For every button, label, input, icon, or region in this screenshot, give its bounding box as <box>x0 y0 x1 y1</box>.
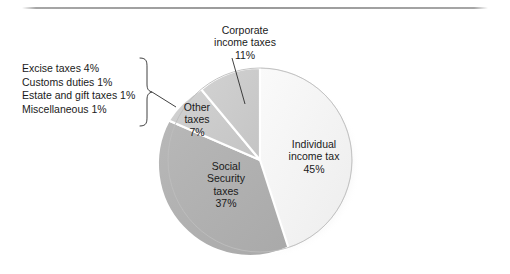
individual-label-line1: Individual <box>292 138 336 150</box>
legend-row-excise-taxes: Excise taxes 4% <box>22 62 135 76</box>
individual-label-line2: income tax <box>289 150 340 162</box>
legend-row-miscellaneous: Miscellaneous 1% <box>22 103 135 117</box>
other-label-line1: Other <box>184 101 210 113</box>
social-label-line2: Security <box>207 172 245 184</box>
slice-label-other-taxes: Other taxes 7% <box>168 101 226 138</box>
legend-row-customs-duties: Customs duties 1% <box>22 76 135 90</box>
social-label-percent: 37% <box>192 197 260 209</box>
legend-row-estate-and-gift-taxes: Estate and gift taxes 1% <box>22 89 135 103</box>
slice-label-corporate-income-taxes: Corporate income taxes 11% <box>186 24 304 61</box>
social-label-line1: Social <box>212 160 241 172</box>
other-label-line2: taxes <box>184 113 209 125</box>
corporate-label-line1: Corporate <box>222 24 269 36</box>
corporate-label-line2: income taxes <box>214 36 276 48</box>
social-label-line3: taxes <box>213 185 238 197</box>
individual-label-percent: 45% <box>268 163 360 175</box>
pie-chart-figure: Excise taxes 4% Customs duties 1% Estate… <box>0 0 510 274</box>
corporate-label-percent: 11% <box>186 49 304 61</box>
other-label-percent: 7% <box>168 126 226 138</box>
other-taxes-brace <box>140 58 152 126</box>
other-taxes-breakdown-list: Excise taxes 4% Customs duties 1% Estate… <box>22 62 135 116</box>
slice-label-individual-income-tax: Individual income tax 45% <box>268 138 360 175</box>
slice-label-social-security-taxes: Social Security taxes 37% <box>192 160 260 210</box>
